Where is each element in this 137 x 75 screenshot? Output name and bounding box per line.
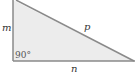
label-p: p xyxy=(84,21,91,32)
label-m: m xyxy=(2,22,11,33)
label-right-angle: 90° xyxy=(15,50,31,60)
label-n: n xyxy=(71,63,77,74)
triangle-diagram: m p 90° n xyxy=(0,0,137,75)
